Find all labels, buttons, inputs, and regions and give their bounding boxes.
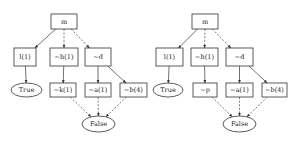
node-label: ~a(1)	[230, 86, 249, 94]
node-false: False	[82, 116, 115, 132]
node-not-a1: ~a(1)	[226, 83, 253, 97]
edge-not-h1-to-not-k1	[63, 66, 64, 83]
node-label: ~h(1)	[195, 53, 214, 61]
edge-not-k1-to-false	[70, 97, 91, 117]
node-true: True	[153, 83, 183, 97]
edge-m-to-l1	[35, 29, 56, 48]
node-not-p: ~p	[193, 83, 217, 97]
edge-not-b4-to-false	[106, 97, 126, 117]
edges	[168, 29, 267, 117]
edge-l1-to-true	[168, 66, 169, 83]
node-not-b4: ~b(4)	[120, 83, 147, 97]
node-l1: l(1)	[14, 48, 36, 66]
node-not-k1: ~k(1)	[50, 83, 76, 97]
node-label: ~a(1)	[89, 86, 108, 94]
node-label: m	[61, 18, 67, 26]
node-label: ~b(4)	[124, 86, 143, 94]
node-not-a1: ~a(1)	[85, 83, 111, 97]
node-not-h1: ~h(1)	[50, 48, 78, 66]
node-label: l(1)	[19, 53, 31, 61]
node-label: ~d	[235, 53, 245, 61]
node-not-d: ~d	[226, 48, 253, 66]
node-label: True	[160, 86, 176, 94]
node-not-d: ~d	[85, 48, 111, 66]
edge-not-d-to-not-b4	[108, 66, 126, 83]
node-label: False	[231, 120, 248, 128]
edge-m-to-not-d	[71, 29, 89, 48]
node-label: ~b(4)	[265, 86, 284, 94]
node-not-b4: ~b(4)	[262, 83, 287, 97]
node-label: ~k(1)	[54, 86, 73, 94]
edges	[25, 29, 126, 117]
diagram-canvas: ml(1)~h(1)~dTrue~k(1)~a(1)~b(4)False ml(…	[0, 0, 300, 147]
node-label: ~d	[93, 53, 103, 61]
node-m: m	[192, 14, 218, 29]
node-label: True	[19, 86, 35, 94]
edge-not-p-to-false	[212, 97, 232, 117]
diagram-left: ml(1)~h(1)~dTrue~k(1)~a(1)~b(4)False	[11, 14, 147, 132]
node-label: l(1)	[164, 53, 176, 61]
node-label: m	[202, 18, 208, 26]
node-l1: l(1)	[156, 48, 183, 66]
edge-not-b4-to-false	[247, 97, 267, 117]
node-m: m	[51, 14, 77, 29]
node-not-h1: ~h(1)	[191, 48, 218, 66]
node-false: False	[223, 116, 256, 132]
diagram-right: ml(1)~h(1)~dTrue~p~a(1)~b(4)False	[153, 14, 287, 132]
edge-m-to-l1	[179, 29, 198, 48]
edge-m-to-not-d	[212, 29, 230, 48]
edge-not-d-to-not-b4	[249, 66, 267, 83]
node-label: ~h(1)	[55, 53, 74, 61]
node-true: True	[11, 83, 42, 97]
edge-l1-to-true	[25, 66, 26, 83]
node-label: ~p	[200, 86, 210, 94]
node-label: False	[90, 120, 107, 128]
